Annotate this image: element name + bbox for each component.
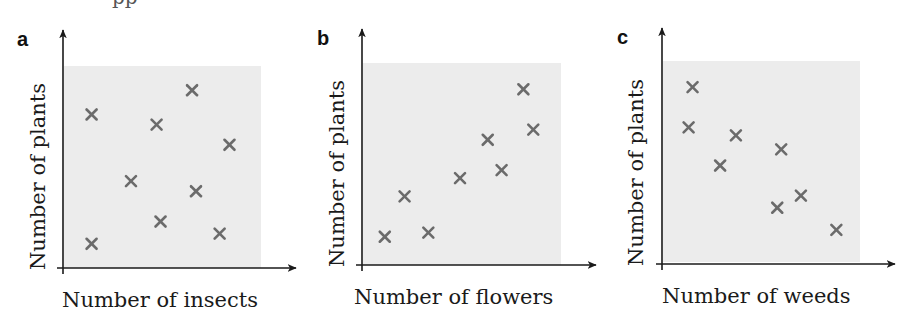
panel-c-x-axis-label: Number of weeds bbox=[662, 284, 851, 308]
panel-b-y-axis-label: Number of plants bbox=[325, 80, 349, 267]
panel-a-x-axis-label: Number of insects bbox=[62, 288, 258, 312]
top-cut-text: pp bbox=[112, 0, 138, 9]
panel-a-letter: a bbox=[17, 28, 29, 50]
scatter-figure: pp a Number of insects Number of plants … bbox=[0, 0, 906, 319]
panel-c: c Number of weeds Number of plants bbox=[617, 26, 895, 308]
panel-a: a Number of insects Number of plants bbox=[17, 28, 296, 312]
panel-c-plot-area bbox=[663, 61, 860, 262]
panel-a-y-axis-label: Number of plants bbox=[26, 83, 50, 270]
panel-b-x-axis-label: Number of flowers bbox=[354, 285, 553, 309]
panel-c-y-axis-label: Number of plants bbox=[624, 79, 648, 266]
panel-c-letter: c bbox=[617, 26, 628, 48]
panel-b-plot-area bbox=[363, 63, 561, 265]
panel-a-plot-area bbox=[64, 66, 261, 268]
panel-b-letter: b bbox=[317, 27, 329, 49]
panel-b: b Number of flowers Number of plants bbox=[317, 27, 596, 309]
